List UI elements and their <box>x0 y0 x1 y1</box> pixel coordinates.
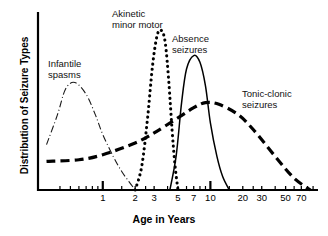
axis-tickmarks <box>60 181 313 190</box>
curve-label-akinetic-minor-motor: Akinetic minor motor <box>112 8 163 30</box>
curve-label-line-2: seizures <box>172 44 209 55</box>
curve-label-line-1: Akinetic <box>112 8 163 19</box>
x-tick-label-2: 2 <box>125 192 145 203</box>
curve-label-line-1: Absence <box>172 33 209 44</box>
y-axis-label: Distribution of Seizure Types <box>19 18 30 194</box>
seizure-distribution-chart: Distribution of Seizure Types Age in Yea… <box>0 0 328 236</box>
x-tick-label-1: 1 <box>93 192 113 203</box>
curve-label-line-2: spasms <box>48 69 81 80</box>
curve-label-tonic-clonic-seizures: Tonic-clonic seizures <box>242 88 292 110</box>
x-axis-tick-labels: 123571020305070 <box>0 192 328 206</box>
curve-label-line-1: Infantile <box>48 58 81 69</box>
curve-label-line-1: Tonic-clonic <box>242 88 292 99</box>
x-axis-label: Age in Years <box>0 213 328 225</box>
curve-absence-seizures <box>170 55 229 190</box>
curve-label-infantile-spasms: Infantile spasms <box>48 58 81 80</box>
curve-label-line-2: seizures <box>242 99 292 110</box>
curve-label-line-2: minor motor <box>112 19 163 30</box>
x-tick-label-3: 3 <box>144 192 164 203</box>
curve-infantile-spasms <box>47 82 136 190</box>
x-tick-label-30: 30 <box>252 192 272 203</box>
x-tick-label-20: 20 <box>233 192 253 203</box>
curve-tonic-clonic-seizures <box>47 102 311 190</box>
x-tick-label-10: 10 <box>200 192 220 203</box>
x-tick-label-70: 70 <box>291 192 311 203</box>
curve-label-absence-seizures: Absence seizures <box>172 33 209 55</box>
